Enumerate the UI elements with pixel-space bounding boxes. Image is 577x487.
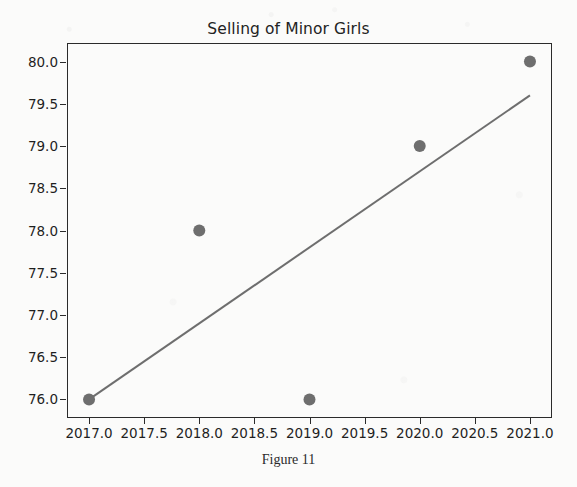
y-axis-tick-mark	[60, 146, 66, 147]
data-point-marker	[83, 393, 95, 405]
x-axis-tick-label: 2017.5	[121, 425, 168, 441]
data-point-marker	[524, 56, 536, 68]
chart-title: Selling of Minor Girls	[0, 20, 577, 38]
x-axis-tick-labels: 2017.02017.52018.02018.52019.02019.52020…	[0, 425, 577, 447]
x-axis-tick-label: 2019.5	[341, 425, 388, 441]
y-axis-tick-mark	[60, 188, 66, 189]
figure-caption: Figure 11	[0, 452, 577, 468]
plot-canvas	[67, 43, 552, 418]
y-axis-tick-mark	[60, 315, 66, 316]
x-axis-tick-label: 2017.0	[65, 425, 112, 441]
x-axis-tick-label: 2018.5	[231, 425, 278, 441]
data-point-marker	[304, 393, 316, 405]
x-axis-tick-label: 2021.0	[506, 425, 553, 441]
data-point-marker	[414, 140, 426, 152]
y-axis-tick-mark	[60, 104, 66, 105]
x-axis-tick-label: 2018.0	[176, 425, 223, 441]
x-axis-tick-mark	[144, 418, 145, 424]
x-axis-tick-mark	[199, 418, 200, 424]
data-point-marker	[193, 225, 205, 237]
x-axis-tick-mark	[365, 418, 366, 424]
y-axis-tick-mark	[60, 62, 66, 63]
y-axis-tick-mark	[60, 273, 66, 274]
trend-line	[89, 95, 530, 399]
x-axis-tick-mark	[254, 418, 255, 424]
x-axis-tick-label: 2020.5	[451, 425, 498, 441]
y-axis-tick-mark	[60, 231, 66, 232]
x-axis-tick-label: 2020.0	[396, 425, 443, 441]
x-axis-tick-mark	[310, 418, 311, 424]
x-axis-tick-label: 2019.0	[286, 425, 333, 441]
y-axis-tick-mark	[60, 399, 66, 400]
x-axis-tick-mark	[420, 418, 421, 424]
x-axis-tick-mark	[530, 418, 531, 424]
figure-container: Selling of Minor Girls 76.076.577.077.57…	[0, 0, 577, 487]
y-axis-tick-marks	[0, 43, 67, 418]
x-axis-tick-mark	[89, 418, 90, 424]
x-axis-tick-mark	[475, 418, 476, 424]
y-axis-tick-mark	[60, 357, 66, 358]
